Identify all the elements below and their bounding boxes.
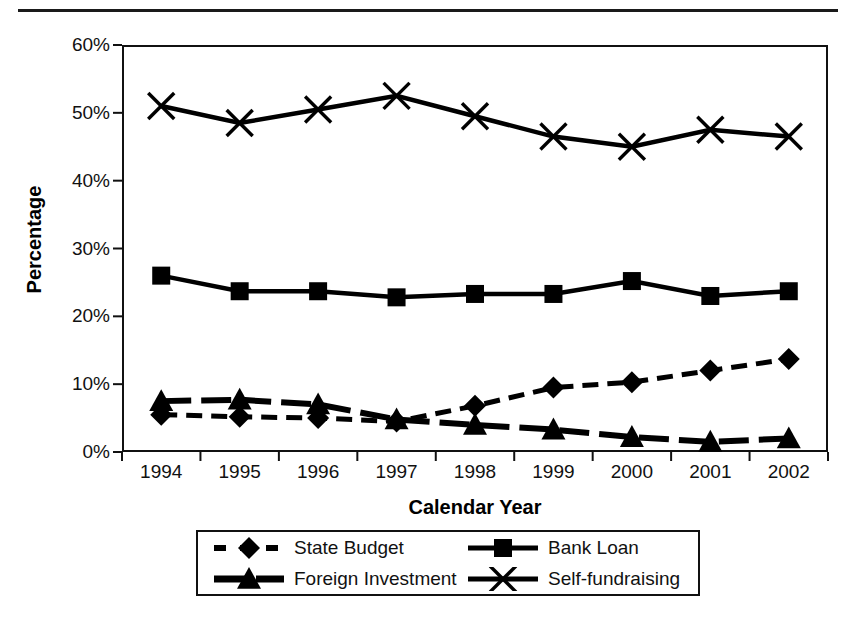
- marker-diamond: [542, 377, 564, 399]
- legend-item-bank-loan[interactable]: Bank Loan: [452, 532, 698, 563]
- marker-square: [701, 287, 719, 305]
- marker-diamond: [778, 348, 800, 370]
- legend-marker-glyph: [212, 567, 286, 591]
- marker-diamond: [699, 360, 721, 382]
- legend-sample-square-icon: [466, 536, 540, 560]
- marker-diamond: [238, 537, 260, 559]
- legend-marker-glyph: [466, 536, 540, 560]
- legend-label: Self-fundraising: [548, 569, 680, 588]
- legend-marker-glyph: [212, 536, 286, 560]
- legend-sample-triangle-icon: [212, 567, 286, 591]
- x-tick-label: 2000: [593, 462, 671, 481]
- legend-label: State Budget: [294, 538, 404, 557]
- marker-square: [388, 288, 406, 306]
- legend-item-state-budget[interactable]: State Budget: [198, 532, 452, 563]
- marker-square: [494, 539, 512, 557]
- legend-label: Bank Loan: [548, 538, 639, 557]
- legend-sample-diamond-icon: [212, 536, 286, 560]
- chart-page: Percentage 0%10%20%30%40%50%60% 19941995…: [0, 0, 856, 632]
- marker-diamond: [621, 371, 643, 393]
- marker-square: [466, 285, 484, 303]
- x-tick-label: 1997: [358, 462, 436, 481]
- x-tick-label: 2001: [671, 462, 749, 481]
- series-self-fundraising: [148, 83, 802, 160]
- x-tick-label: 2002: [750, 462, 828, 481]
- x-axis-label: Calendar Year: [122, 496, 828, 519]
- legend-label: Foreign Investment: [294, 569, 457, 588]
- x-tick-label: 1999: [514, 462, 592, 481]
- legend-sample-cross-icon: [466, 567, 540, 591]
- series-line: [161, 96, 789, 147]
- legend-item-self-fundraising[interactable]: Self-fundraising: [452, 563, 698, 594]
- series-bank-loan: [152, 267, 798, 307]
- marker-square: [309, 282, 327, 300]
- legend-marker-glyph: [466, 567, 540, 591]
- marker-square: [152, 267, 170, 285]
- marker-square: [544, 285, 562, 303]
- x-tick-label: 1998: [436, 462, 514, 481]
- legend-grid: State BudgetBank LoanForeign InvestmentS…: [198, 532, 698, 594]
- x-tick-label: 1995: [201, 462, 279, 481]
- legend-item-foreign-investment[interactable]: Foreign Investment: [198, 563, 452, 594]
- x-tick-label: 1994: [122, 462, 200, 481]
- marker-square: [780, 282, 798, 300]
- x-tick-label: 1996: [279, 462, 357, 481]
- marker-square: [623, 272, 641, 290]
- legend: State BudgetBank LoanForeign InvestmentS…: [196, 530, 700, 596]
- marker-square: [231, 282, 249, 300]
